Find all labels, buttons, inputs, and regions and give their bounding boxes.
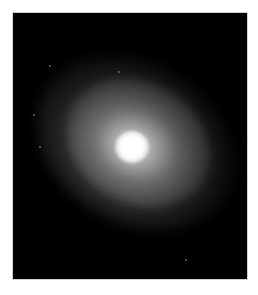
galaxy-core bbox=[115, 131, 149, 163]
star bbox=[185, 259, 187, 261]
star bbox=[49, 65, 51, 67]
star bbox=[118, 71, 120, 73]
star bbox=[39, 146, 41, 148]
galaxy-image bbox=[12, 12, 248, 280]
star bbox=[33, 114, 35, 116]
